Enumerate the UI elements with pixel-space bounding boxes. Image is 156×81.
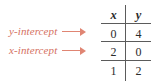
arrow-head xyxy=(80,28,86,36)
figure-table-intercepts: y-intercept x-intercept x y 0 4 2 0 xyxy=(0,0,156,81)
table-cell-x: 2 xyxy=(101,43,126,61)
table-cell-y: 4 xyxy=(126,25,151,43)
table-header-row: x y xyxy=(101,6,151,24)
table-cell-x: 0 xyxy=(101,25,126,43)
table-cell-y: 2 xyxy=(126,62,151,80)
annotation-y-intercept: y-intercept xyxy=(9,26,86,37)
arrow-shaft xyxy=(62,50,81,51)
table-row: 1 2 xyxy=(101,62,151,80)
right-arrow-icon xyxy=(62,27,86,36)
table-cell-y: 0 xyxy=(126,43,151,61)
annotation-x-intercept: x-intercept xyxy=(9,45,86,56)
right-arrow-icon xyxy=(62,46,86,55)
annotation-x-intercept-label: x-intercept xyxy=(9,45,57,56)
table-row: 2 0 xyxy=(101,43,151,61)
annotation-y-intercept-label: y-intercept xyxy=(9,26,57,37)
table-header-y: y xyxy=(126,6,151,24)
arrow-head xyxy=(80,47,86,55)
arrow-shaft xyxy=(62,31,81,32)
table-header-x: x xyxy=(101,6,126,24)
value-table: x y 0 4 2 0 1 2 xyxy=(101,5,151,81)
table-cell-x: 1 xyxy=(101,62,126,80)
table-row: 0 4 xyxy=(101,25,151,43)
